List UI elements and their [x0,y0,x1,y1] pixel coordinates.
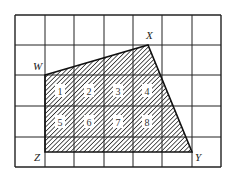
number-label: 2 [87,86,92,97]
number-label: 1 [58,86,63,97]
numbered-square-8: 8 [142,115,152,128]
numbered-square-2: 2 [84,84,94,97]
number-label: 7 [116,117,121,128]
number-label: 6 [87,117,92,128]
vertex-label-z: Z [34,151,41,163]
numbered-square-5: 5 [55,115,65,128]
number-label: 5 [58,117,63,128]
numbered-square-6: 6 [84,115,94,128]
numbered-square-4: 4 [142,84,152,97]
number-label: 8 [145,117,150,128]
vertex-label-x: X [145,29,154,41]
number-label: 4 [145,86,150,97]
vertex-label-w: W [33,60,43,72]
numbered-square-7: 7 [113,115,123,128]
numbered-square-3: 3 [113,84,123,97]
number-label: 3 [116,86,121,97]
numbered-square-1: 1 [55,84,65,97]
vertex-label-y: Y [195,151,203,163]
grid-diagram: 12345678 WXYZ [0,0,232,179]
